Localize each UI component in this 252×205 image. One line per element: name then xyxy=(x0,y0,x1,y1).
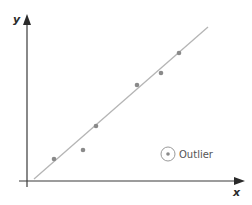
y-axis-label: y xyxy=(13,13,21,26)
data-point xyxy=(94,124,99,129)
scatter-diagram: y x Outlier xyxy=(0,0,252,205)
legend: Outlier xyxy=(161,147,214,161)
data-point xyxy=(52,157,57,162)
data-point xyxy=(177,51,182,56)
x-axis-label: x xyxy=(232,186,241,199)
data-point xyxy=(135,83,140,88)
data-point-outlier xyxy=(81,148,86,153)
x-axis-arrow-icon xyxy=(234,177,245,185)
y-axis-arrow-icon xyxy=(23,14,31,25)
legend-label-outlier: Outlier xyxy=(179,149,214,160)
data-point-outlier xyxy=(159,71,164,76)
outlier-legend-dot-icon xyxy=(166,152,170,156)
